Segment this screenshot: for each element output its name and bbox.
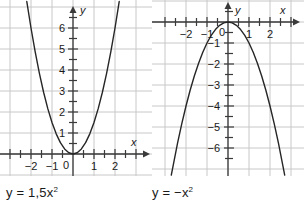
plot-area-left: −2 −1 0 1 2 1 2 3 4 5 6 x y	[0, 0, 152, 176]
y-tick-labels-left: 1 2 3 4 5 6	[59, 22, 65, 139]
x-tick-label: 2	[267, 28, 273, 40]
x-axis-arrow-left	[143, 151, 150, 158]
x-tick-label-origin: 0	[63, 159, 69, 171]
y-tick-label: −5	[207, 121, 220, 133]
x-axis-label-left: x	[130, 136, 137, 148]
y-tick-label: 1	[59, 127, 65, 139]
y-axis-arrow-right	[225, 2, 232, 9]
y-tick-labels-right: −1 −2 −3 −4 −5 −6	[207, 37, 220, 154]
y-tick-label: −3	[207, 79, 220, 91]
caption-right-exponent: 2	[189, 185, 194, 194]
y-tick-label: 3	[59, 85, 65, 97]
chart-panel-right: −2 −1 0 1 2 −1 −2 −3 −4 −5 −6 x y	[152, 0, 304, 176]
y-tick-label: −6	[207, 142, 220, 154]
x-tick-label: −2	[180, 28, 193, 40]
x-tick-label: 2	[112, 160, 118, 172]
x-axis-label-right: x	[279, 4, 286, 16]
caption-right-base: y = −x	[152, 185, 189, 200]
y-axis-label-right: y	[234, 4, 242, 16]
caption-left-exponent: 2	[54, 185, 59, 194]
x-tick-label: −1	[46, 160, 59, 172]
y-axis-ticks-right	[224, 12, 234, 159]
caption-right: y = −x2	[152, 185, 193, 200]
caption-left-base: y = 1,5x	[6, 185, 54, 200]
y-tick-label: −2	[207, 58, 220, 70]
grid-lines-left	[0, 0, 152, 176]
x-tick-labels-left: −2 −1 0 1 2	[25, 159, 118, 172]
plot-area-right: −2 −1 0 1 2 −1 −2 −3 −4 −5 −6 x y	[152, 0, 304, 176]
chart-panel-left: −2 −1 0 1 2 1 2 3 4 5 6 x y	[0, 0, 152, 176]
x-tick-label: −2	[25, 160, 38, 172]
y-axis-label-left: y	[79, 4, 87, 16]
y-tick-label: 6	[59, 22, 65, 34]
y-tick-label: 4	[59, 64, 65, 76]
caption-left: y = 1,5x2	[6, 185, 58, 200]
plot-svg-right: −2 −1 0 1 2 −1 −2 −3 −4 −5 −6 x y	[152, 0, 304, 176]
x-tick-label: 1	[91, 160, 97, 172]
y-tick-label: 2	[59, 106, 65, 118]
x-axis-arrow-right	[293, 19, 300, 26]
y-tick-label: −4	[207, 100, 220, 112]
axes-left	[0, 10, 143, 176]
y-tick-label: 5	[59, 43, 65, 55]
plot-svg-left: −2 −1 0 1 2 1 2 3 4 5 6 x y	[0, 0, 152, 176]
parabola-figure: −2 −1 0 1 2 1 2 3 4 5 6 x y	[0, 0, 304, 202]
